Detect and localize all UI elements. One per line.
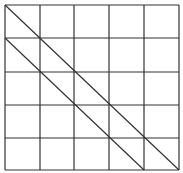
grid-diagram (0, 0, 183, 173)
grid-diagram-svg (0, 0, 183, 173)
diagonal-line (5, 5, 179, 170)
diagonal-lines (5, 5, 179, 170)
